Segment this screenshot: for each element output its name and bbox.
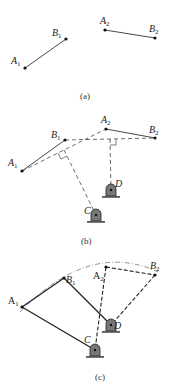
point-b2 [153, 36, 156, 39]
label-c: C [84, 334, 91, 345]
label-a2: A2 [100, 114, 111, 127]
point-b1 [64, 37, 67, 40]
link-a1-b1 [25, 39, 66, 68]
panel-b: A1 B1 A2 B2 C D (b) [7, 114, 159, 246]
label-b2: B2 [150, 260, 160, 273]
label-b2: B2 [149, 23, 159, 36]
link-a1-b1 [22, 140, 65, 171]
label-a1: A1 [10, 55, 21, 68]
bisector-a [64, 150, 96, 215]
caption-a: (a) [80, 91, 90, 101]
rocker-d-2 [111, 275, 155, 325]
four-bar-linkage-diagram: A1 B1 A2 B2 (a) A1 B1 A2 B2 C D (b) [0, 0, 174, 389]
label-a2: A2 [99, 15, 110, 28]
link-a2-b2 [105, 30, 155, 38]
label-c: C [84, 205, 91, 216]
point-a1 [23, 66, 26, 69]
label-b2: B2 [149, 124, 159, 137]
label-a1: A1 [8, 295, 19, 308]
coupler-link-2 [106, 267, 155, 275]
panel-c: A1 B1 A2 B2 C D (c) [8, 260, 160, 382]
coupler-link-1 [22, 278, 64, 307]
right-angle-mark [58, 153, 67, 159]
label-b1: B1 [51, 129, 61, 142]
label-d: D [114, 178, 123, 189]
bisector-b [110, 139, 111, 190]
label-d: D [113, 320, 122, 331]
right-angle-mark [110, 139, 116, 145]
point-a2 [103, 28, 106, 31]
link-a2-b2 [106, 129, 155, 138]
label-a1: A1 [7, 157, 18, 170]
label-b1: B1 [52, 27, 62, 40]
caption-b: (b) [81, 236, 92, 246]
panel-a: A1 B1 A2 B2 (a) [10, 15, 159, 101]
coupler-arc [20, 262, 158, 312]
caption-c: (c) [95, 372, 105, 382]
label-a2: A2 [93, 270, 104, 283]
